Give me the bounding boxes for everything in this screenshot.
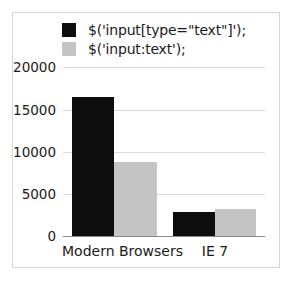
bar-modern-pseudo-selector bbox=[114, 162, 157, 236]
legend-swatch-black bbox=[62, 23, 76, 37]
legend-item-pseudo-selector: $('input:text'); bbox=[62, 41, 185, 57]
x-axis-baseline bbox=[63, 236, 265, 237]
x-category-ie7: IE 7 bbox=[190, 243, 240, 259]
legend-item-attribute-selector: $('input[type="text"]'); bbox=[62, 22, 246, 38]
legend-label: $('input[type="text"]'); bbox=[88, 22, 246, 38]
legend-swatch-grey bbox=[62, 42, 76, 56]
legend-label: $('input:text'); bbox=[88, 41, 185, 57]
y-tick-10000: 10000 bbox=[13, 144, 56, 160]
y-tick-15000: 15000 bbox=[13, 102, 56, 118]
y-tick-5000: 5000 bbox=[22, 186, 56, 202]
bar-ie7-pseudo-selector bbox=[215, 209, 256, 236]
y-tick-20000: 20000 bbox=[13, 59, 56, 75]
bar-modern-attribute-selector bbox=[72, 97, 114, 236]
gridline-20000 bbox=[63, 67, 265, 68]
bar-ie7-attribute-selector bbox=[173, 212, 215, 236]
x-category-modern-browsers: Modern Browsers bbox=[62, 243, 170, 259]
y-tick-0: 0 bbox=[47, 228, 56, 244]
